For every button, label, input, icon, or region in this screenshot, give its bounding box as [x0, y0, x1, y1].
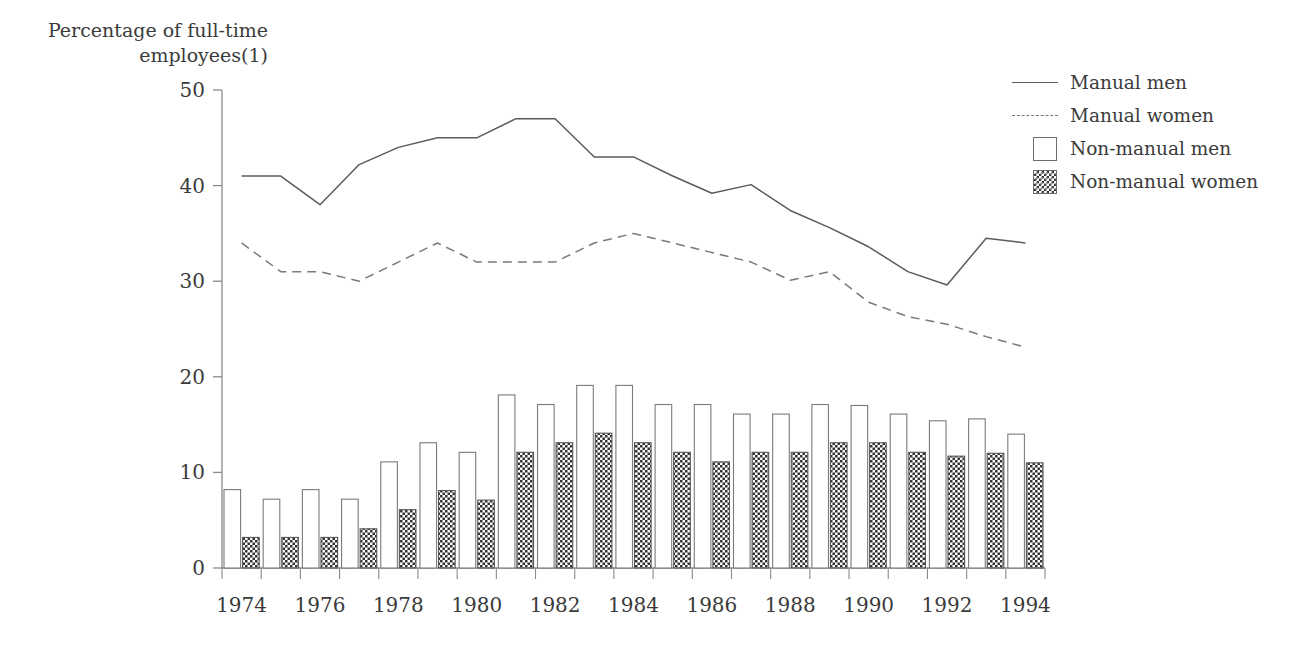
x-tick-label: 1984	[608, 593, 659, 617]
x-tick-label: 1978	[373, 593, 424, 617]
bar	[342, 499, 359, 568]
bar	[498, 395, 515, 568]
bar	[733, 414, 750, 568]
bars-non-manual-women	[243, 433, 1043, 568]
bar	[595, 433, 612, 568]
chart-figure: Percentage of full-time employees(1) 010…	[0, 0, 1291, 645]
bar	[752, 452, 769, 568]
bar	[713, 462, 730, 568]
x-tick-label: 1982	[530, 593, 581, 617]
y-tick-label: 30	[180, 269, 205, 293]
bar	[851, 405, 868, 568]
bar	[556, 443, 573, 568]
bar	[830, 443, 847, 568]
bar	[655, 405, 672, 568]
x-tick-label: 1980	[451, 593, 502, 617]
bar	[694, 405, 711, 568]
solid-line-icon	[1012, 82, 1070, 83]
bar	[282, 537, 299, 568]
bar	[263, 499, 280, 568]
bar	[517, 452, 534, 568]
bar	[909, 452, 926, 568]
bar	[224, 490, 241, 568]
bar	[478, 500, 495, 568]
bar	[420, 443, 437, 568]
y-tick-label: 0	[192, 556, 205, 580]
x-tick-label: 1974	[216, 593, 267, 617]
bar	[577, 385, 594, 568]
bar	[791, 452, 808, 568]
bar	[459, 452, 476, 568]
open-square-icon	[1012, 137, 1070, 161]
y-axis-title: Percentage of full-time employees(1)	[18, 18, 268, 68]
bar	[321, 537, 338, 568]
bar	[1008, 434, 1025, 568]
bar	[969, 419, 986, 568]
legend-item-manual-women: Manual women	[1012, 99, 1282, 132]
bar	[674, 452, 691, 568]
y-tick-label: 10	[180, 460, 205, 484]
x-tick-label: 1976	[295, 593, 346, 617]
bar	[929, 421, 946, 568]
bar	[987, 453, 1004, 568]
bar	[399, 510, 416, 568]
y-tick-label: 50	[180, 78, 205, 102]
bar	[1026, 463, 1043, 568]
y-tick-label: 20	[180, 365, 205, 389]
chart-legend: Manual men Manual women Non-manual men N…	[1012, 66, 1282, 198]
legend-label-non-manual-men: Non-manual men	[1070, 138, 1231, 159]
x-tick-label: 1994	[1000, 593, 1051, 617]
line-manual-women	[242, 233, 1026, 347]
bar	[243, 537, 260, 568]
legend-item-manual-men: Manual men	[1012, 66, 1282, 99]
bar	[616, 385, 633, 568]
bar	[302, 490, 319, 568]
x-tick-label: 1990	[843, 593, 894, 617]
x-tick-label: 1992	[922, 593, 973, 617]
x-tick-labels: 1974197619781980198219841986198819901992…	[216, 593, 1051, 617]
line-manual-men	[242, 119, 1026, 285]
bar	[870, 443, 887, 568]
bar	[948, 456, 965, 568]
legend-label-manual-women: Manual women	[1070, 105, 1214, 126]
bar	[538, 405, 555, 568]
line-series	[242, 119, 1026, 347]
checkered-square-icon	[1012, 170, 1070, 194]
x-tick-label: 1988	[765, 593, 816, 617]
dashed-line-icon	[1012, 115, 1070, 116]
legend-label-non-manual-women: Non-manual women	[1070, 171, 1258, 192]
y-tick-labels: 01020304050	[180, 78, 205, 580]
bar	[439, 491, 456, 568]
legend-item-non-manual-women: Non-manual women	[1012, 165, 1282, 198]
x-tick-label: 1986	[686, 593, 737, 617]
bar	[381, 462, 398, 568]
bars-non-manual-men	[224, 385, 1024, 568]
y-tick-label: 40	[180, 174, 205, 198]
legend-item-non-manual-men: Non-manual men	[1012, 132, 1282, 165]
bar	[812, 405, 829, 568]
bar	[773, 414, 790, 568]
bar	[360, 529, 377, 568]
legend-label-manual-men: Manual men	[1070, 72, 1187, 93]
bar	[635, 443, 652, 568]
bar	[890, 414, 907, 568]
